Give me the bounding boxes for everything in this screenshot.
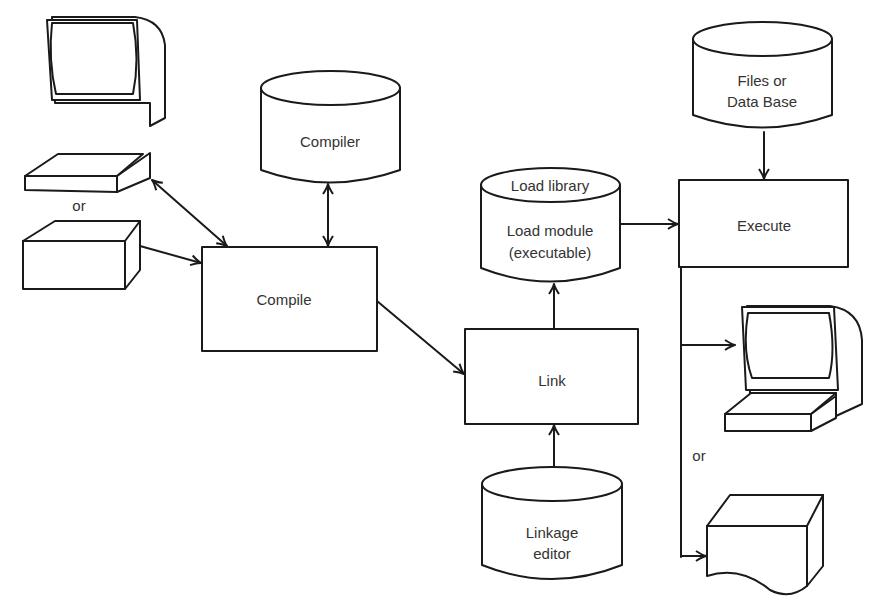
files-database-cylinder: Files or Data Base [693, 22, 832, 128]
or-output-label: or [692, 447, 705, 464]
execute-box: Execute [679, 180, 848, 267]
link-label: Link [538, 372, 566, 389]
editor-label: editor [533, 545, 571, 562]
compile-link-execute-diagram: or Compiler Compile Load library Load mo… [0, 0, 884, 607]
link-box: Link [465, 329, 638, 424]
executable-label: (executable) [509, 244, 592, 261]
compiler-cylinder: Compiler [261, 71, 400, 183]
compiler-label: Compiler [300, 133, 360, 150]
load-library-cylinder: Load library Load module (executable) [481, 168, 620, 282]
load-module-label: Load module [507, 222, 594, 239]
database-label: Data Base [727, 93, 797, 110]
execute-label: Execute [737, 217, 791, 234]
files-label: Files or [737, 72, 786, 89]
linkage-label: Linkage [526, 524, 579, 541]
compile-box: Compile [202, 247, 377, 351]
input-terminal-icon [25, 17, 165, 192]
or-input-label: or [72, 197, 85, 214]
load-library-label: Load library [511, 177, 590, 194]
output-terminal-icon [725, 306, 862, 431]
input-card-reader-icon [23, 221, 140, 289]
compile-label: Compile [256, 291, 311, 308]
linkage-editor-cylinder: Linkage editor [482, 467, 622, 579]
output-printer-icon [707, 495, 823, 594]
